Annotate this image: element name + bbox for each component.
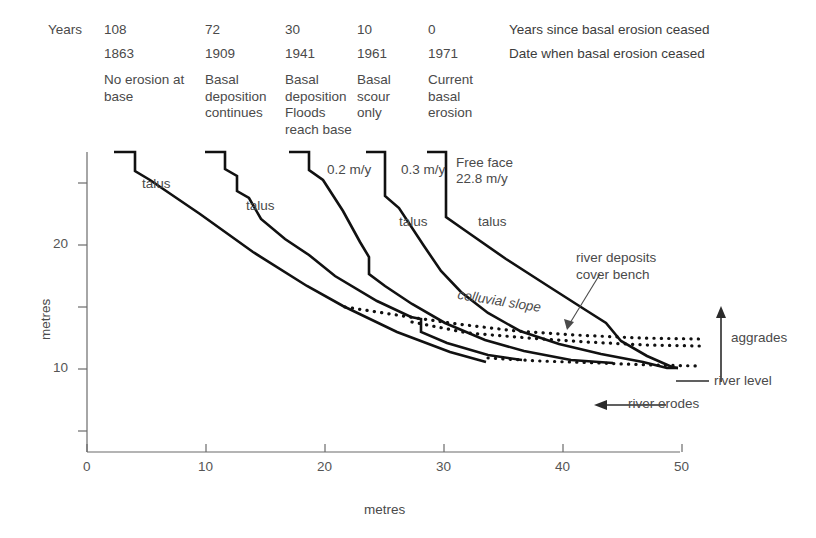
river-deposits-leader-arrow: [564, 319, 574, 330]
x-axis-title: metres: [364, 502, 405, 517]
x-tick-label-40: 40: [555, 459, 570, 474]
x-tick-label-20: 20: [317, 459, 332, 474]
x-tick-label-30: 30: [436, 459, 451, 474]
x-tick-label-0: 0: [83, 459, 91, 474]
annotation-river-level: river level: [714, 373, 772, 389]
annotation-river-erodes: river erodes: [628, 396, 699, 412]
aggrades-arrow-head: [716, 306, 726, 318]
figure-root: Years 108 72 30 10 0 1863 1909 1941 1961…: [0, 0, 816, 538]
annotation-rate-0-3: 0.3 m/y: [401, 162, 445, 178]
annotation-rate-0-2: 0.2 m/y: [327, 162, 371, 178]
annotation-free-face-rate: 22.8 m/y: [456, 171, 508, 187]
annotation-river-deposits: river deposits: [576, 250, 656, 266]
y-tick-label-20: 20: [53, 236, 68, 251]
annotation-free-face: Free face: [456, 155, 513, 171]
y-axis-title: metres: [38, 299, 53, 340]
annotation-talus-2: talus: [246, 198, 275, 214]
annotation-talus-4: talus: [478, 214, 507, 230]
annotation-aggrades: aggrades: [731, 330, 787, 346]
annotation-cover-bench: cover bench: [576, 267, 650, 283]
x-tick-label-10: 10: [198, 459, 213, 474]
river-erodes-arrow-head: [594, 400, 607, 410]
profile-line-1941: [289, 152, 613, 363]
profile-chart: [0, 0, 816, 538]
y-tick-label-10: 10: [53, 360, 68, 375]
annotation-talus-3: talus: [399, 214, 428, 230]
annotation-talus-1: talus: [142, 176, 171, 192]
x-tick-label-50: 50: [674, 459, 689, 474]
